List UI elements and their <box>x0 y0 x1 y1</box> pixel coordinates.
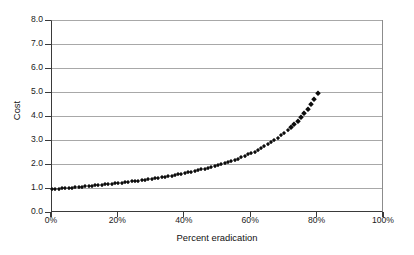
x-axis-tick-mark <box>183 212 184 217</box>
x-axis-tick-label: 20% <box>97 216 137 225</box>
x-axis-tick-mark <box>250 212 251 217</box>
x-axis-tick-label: 40% <box>164 216 204 225</box>
x-axis-tick-label: 100% <box>363 216 403 225</box>
x-axis-tick-mark <box>50 212 51 217</box>
x-axis-tick-mark <box>117 212 118 217</box>
y-axis-title: Cost <box>11 81 22 141</box>
x-axis-tick-mark <box>316 212 317 217</box>
x-axis-tick-label: 80% <box>297 216 337 225</box>
chart-figure: 0.01.02.03.04.05.06.07.08.0 0%20%40%60%8… <box>0 0 414 255</box>
x-axis-tick-label: 60% <box>230 216 270 225</box>
x-axis-title: Percent eradication <box>51 232 383 243</box>
x-axis-tick-label: 0% <box>31 216 71 225</box>
x-axis-tick-group: 0%20%40%60%80%100% <box>0 0 414 255</box>
x-axis-tick-mark <box>382 212 383 217</box>
